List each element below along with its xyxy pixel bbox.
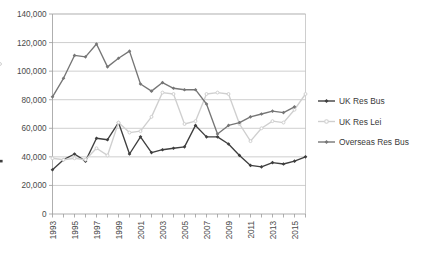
data-point — [293, 159, 297, 163]
data-point — [172, 93, 175, 96]
data-point — [161, 91, 164, 94]
y-axis-label: 120,000 — [17, 39, 47, 48]
x-axis-label: 1997 — [93, 221, 102, 240]
data-point — [183, 123, 186, 126]
y-axis-label: 100,000 — [17, 67, 47, 76]
data-point — [51, 157, 54, 160]
data-point — [62, 158, 65, 161]
data-point — [293, 108, 296, 111]
y-axis-label: 40,000 — [21, 153, 46, 162]
x-axis-label: 2009 — [225, 221, 234, 240]
x-axis-label: 1993 — [49, 221, 58, 240]
x-axis-label: 2005 — [181, 221, 190, 240]
data-point — [282, 162, 286, 166]
data-point — [172, 146, 176, 150]
data-point — [0, 63, 1, 66]
data-point — [260, 127, 263, 130]
data-point — [227, 93, 230, 96]
data-point — [271, 120, 274, 123]
data-point — [139, 130, 142, 133]
data-point — [84, 158, 87, 161]
data-point — [304, 155, 308, 159]
data-point — [161, 148, 165, 152]
data-point — [271, 109, 275, 113]
y-axis-label: 0 — [42, 210, 47, 219]
data-point — [117, 121, 120, 124]
data-point — [205, 93, 208, 96]
data-point — [304, 93, 307, 96]
legend-swatch-marker-0 — [325, 99, 329, 103]
y-axis-label: 140,000 — [17, 10, 47, 19]
data-point — [183, 88, 187, 92]
legend-label-2: Overseas Res Bus — [339, 137, 409, 147]
x-axis-label: 2015 — [291, 221, 300, 240]
data-point — [150, 115, 153, 118]
data-point — [271, 161, 275, 165]
line-chart: 020,00040,00060,00080,000100,000120,0001… — [0, 0, 430, 253]
x-axis-label: 2011 — [247, 221, 256, 239]
data-point — [95, 147, 98, 150]
y-axis-label: 80,000 — [21, 96, 46, 105]
data-point — [216, 91, 219, 94]
data-point — [0, 160, 3, 163]
legend-swatch-marker-1 — [325, 120, 329, 124]
legend-label-0: UK Res Bus — [339, 96, 385, 106]
data-point — [282, 121, 285, 124]
data-point — [249, 140, 252, 143]
x-axis-label: 2001 — [137, 221, 146, 240]
legend-label-1: UK Res Lei — [339, 117, 381, 127]
x-axis-label: 1995 — [71, 221, 80, 240]
data-point — [128, 131, 131, 134]
series-line-0 — [53, 123, 306, 170]
y-axis-label: 20,000 — [21, 181, 46, 190]
x-axis-label: 2003 — [159, 221, 168, 240]
y-axis-label: 60,000 — [21, 124, 46, 133]
x-axis-label: 2007 — [203, 221, 212, 240]
data-point — [260, 112, 264, 116]
x-axis-label: 2013 — [269, 221, 278, 240]
legend-swatch-marker-2 — [325, 140, 329, 144]
data-point — [73, 157, 76, 160]
chart-canvas: 020,00040,00060,00080,000100,000120,0001… — [0, 0, 430, 253]
data-point — [194, 120, 197, 123]
data-point — [260, 165, 264, 169]
x-axis-label: 1999 — [115, 221, 124, 240]
data-point — [106, 154, 109, 157]
